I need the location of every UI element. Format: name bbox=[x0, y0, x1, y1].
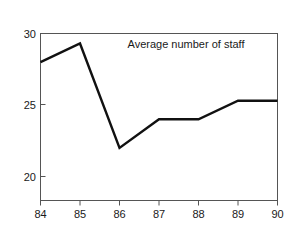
y-tick-label-30: 30 bbox=[24, 28, 36, 40]
chart-container: 30 25 20 84 85 86 87 88 89 90 Average nu… bbox=[0, 0, 298, 242]
x-tick-label-89: 89 bbox=[232, 208, 244, 220]
x-tick-label-90: 90 bbox=[271, 208, 283, 220]
x-tick-label-85: 85 bbox=[74, 208, 86, 220]
y-tick-label-20: 20 bbox=[24, 171, 36, 183]
chart-background bbox=[0, 0, 298, 242]
x-tick-label-86: 86 bbox=[113, 208, 125, 220]
x-tick-label-84: 84 bbox=[34, 208, 46, 220]
y-tick-label-25: 25 bbox=[24, 99, 36, 111]
x-tick-label-87: 87 bbox=[153, 208, 165, 220]
x-tick-label-88: 88 bbox=[192, 208, 204, 220]
chart-title: Average number of staff bbox=[128, 38, 246, 50]
line-chart: 30 25 20 84 85 86 87 88 89 90 Average nu… bbox=[0, 0, 298, 242]
